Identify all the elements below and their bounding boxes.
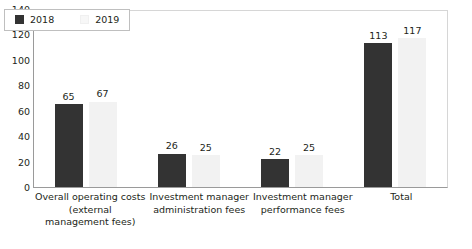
legend-swatch-2019 xyxy=(80,15,89,24)
legend-swatch-2018 xyxy=(15,15,24,24)
bar-2018-1: 65 xyxy=(55,11,83,187)
y-axis-tick-40: 40 xyxy=(2,132,30,142)
legend-label: 2019 xyxy=(95,15,119,25)
legend-item-2019[interactable]: 2019 xyxy=(80,15,119,25)
bar-rect xyxy=(158,154,186,187)
bar-rect xyxy=(398,38,426,187)
bar-rect xyxy=(364,43,392,187)
bar-2018-4: 113 xyxy=(364,11,392,187)
category-label-1: Overall operating costs(externalmanageme… xyxy=(33,191,147,229)
y-axis-tick-20: 20 xyxy=(2,158,30,168)
bar-groups: 656726252225113117 xyxy=(34,11,447,187)
category-label-3: Investment managerperformance fees xyxy=(251,191,355,229)
bar-rect xyxy=(295,155,323,187)
category-label-line: Investment manager xyxy=(253,191,353,204)
y-axis-tick-100: 100 xyxy=(2,56,30,66)
category-label-line: Overall operating costs xyxy=(35,191,145,204)
bar-rect xyxy=(261,159,289,187)
bar-value-label: 25 xyxy=(200,143,212,153)
category-label-line: administration fees xyxy=(149,204,249,217)
bar-rect xyxy=(192,155,220,187)
y-axis-tick-0: 0 xyxy=(2,183,30,193)
bar-chart: 140120100806040200 656726252225113117 Ov… xyxy=(0,0,472,249)
category-label-line: Total xyxy=(357,191,446,204)
bar-2019-4: 117 xyxy=(398,11,426,187)
y-axis: 140120100806040200 xyxy=(0,0,30,249)
legend-item-2018[interactable]: 2018 xyxy=(15,15,54,25)
bar-rect xyxy=(55,104,83,187)
bar-value-label: 65 xyxy=(63,92,75,102)
bar-value-label: 113 xyxy=(369,31,387,41)
bar-2019-3: 25 xyxy=(295,11,323,187)
x-axis-category-labels: Overall operating costs(externalmanageme… xyxy=(33,191,448,229)
bar-2018-2: 26 xyxy=(158,11,186,187)
y-axis-tick-80: 80 xyxy=(2,82,30,92)
category-label-line: (external xyxy=(35,204,145,217)
bar-2018-3: 22 xyxy=(261,11,289,187)
category-label-line: performance fees xyxy=(253,204,353,217)
category-label-4: Total xyxy=(355,191,448,229)
category-label-line: Investment manager xyxy=(149,191,249,204)
category-label-2: Investment manageradministration fees xyxy=(147,191,251,229)
bar-group-4: 113117 xyxy=(344,11,447,187)
bar-value-label: 26 xyxy=(166,141,178,151)
bar-2019-1: 67 xyxy=(89,11,117,187)
chart-legend: 20182019 xyxy=(4,9,130,31)
bar-2019-2: 25 xyxy=(192,11,220,187)
y-axis-tick-60: 60 xyxy=(2,107,30,117)
bar-value-label: 25 xyxy=(303,143,315,153)
legend-label: 2018 xyxy=(30,15,54,25)
category-label-line: management fees) xyxy=(35,216,145,229)
y-axis-tick-120: 120 xyxy=(2,31,30,41)
plot-area: 656726252225113117 xyxy=(33,10,448,188)
bar-group-2: 2625 xyxy=(137,11,240,187)
bar-group-3: 2225 xyxy=(241,11,344,187)
bar-group-1: 6567 xyxy=(34,11,137,187)
bar-rect xyxy=(89,102,117,187)
bar-value-label: 67 xyxy=(97,89,109,99)
bar-value-label: 22 xyxy=(269,147,281,157)
bar-value-label: 117 xyxy=(403,26,421,36)
